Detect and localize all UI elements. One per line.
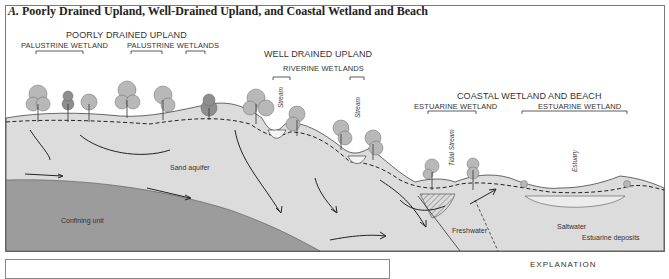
label-freshwater: Freshwater <box>452 227 487 234</box>
heading-riverine-wetlands: RIVERINE WETLANDS <box>283 64 364 73</box>
panel-title: A. Poorly Drained Upland, Well-Drained U… <box>8 4 428 19</box>
label-estuarine-deposits: Estuarine deposits <box>582 234 640 241</box>
panel-letter: A. <box>8 4 19 18</box>
label-saltwater: Saltwater <box>557 223 586 230</box>
label-sand-aquifer: Sand aquifer <box>170 164 210 171</box>
heading-coastal-wetland-and-beach: COASTAL WETLAND AND BEACH <box>457 91 602 101</box>
label-estuary: Estuary <box>571 150 578 172</box>
explanation-heading: EXPLANATION <box>530 260 596 269</box>
panel-b-box <box>5 259 390 279</box>
label-tidal-stream: Tidal Stream <box>448 129 455 166</box>
heading-palustrine-wetland: PALUSTRINE WETLAND <box>21 41 108 50</box>
label-confining-unit: Confining unit <box>61 217 104 224</box>
heading-poorly-drained-upland: POORLY DRAINED UPLAND <box>66 30 187 40</box>
label-stream-1: Stream <box>277 87 284 108</box>
heading-well-drained-upland: WELL DRAINED UPLAND <box>264 49 372 59</box>
heading-estuarine-wetland-2: ESTUARINE WETLAND <box>538 102 621 111</box>
label-stream-2: Stream <box>354 97 361 118</box>
heading-estuarine-wetland-1: ESTUARINE WETLAND <box>414 102 497 111</box>
heading-palustrine-wetlands: PALUSTRINE WETLANDS <box>127 41 219 50</box>
panel-title-text: Poorly Drained Upland, Well-Drained Upla… <box>22 4 428 18</box>
